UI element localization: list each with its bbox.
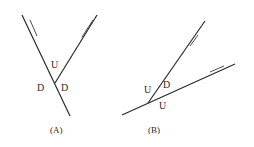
panel-a-fault-line-2: [55, 15, 97, 83]
label-b-bottom: U: [159, 100, 167, 111]
caption-b: (B): [148, 125, 160, 135]
panel-b: U D U (B): [122, 21, 235, 135]
label-a-lower-left: D: [37, 82, 44, 93]
half-arrow-icon: [210, 66, 224, 72]
half-arrow-icon: [82, 20, 93, 37]
panel-a: U D D (A): [22, 15, 97, 135]
label-b-left: U: [144, 84, 152, 95]
fault-diagram: U D D (A) U D U (B): [0, 0, 254, 147]
label-b-between: D: [163, 79, 170, 90]
panel-b-fault-line-2: [122, 64, 235, 115]
label-a-lower-right: D: [61, 82, 68, 93]
label-a-upper: U: [51, 59, 59, 70]
panel-a-fault-line-1: [22, 15, 70, 116]
caption-a: (A): [50, 125, 63, 135]
